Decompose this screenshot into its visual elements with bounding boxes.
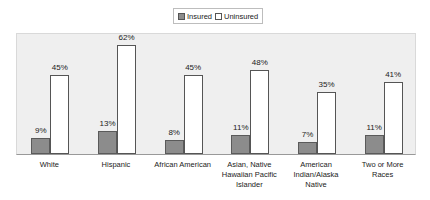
legend-label-uninsured: Uninsured — [224, 12, 258, 21]
legend-item-uninsured: Uninsured — [215, 12, 258, 21]
bar-insured-0 — [31, 138, 50, 154]
plot-area: 9%45%13%62%8%45%11%48%7%35%11%41% — [16, 33, 416, 155]
chart-legend: Insured Uninsured — [173, 8, 263, 24]
bar-uninsured-0 — [50, 75, 69, 154]
bar-uninsured-4 — [317, 92, 336, 154]
bar-insured-5 — [365, 135, 384, 154]
value-label-uninsured-3: 48% — [245, 58, 275, 67]
bar-insured-2 — [165, 140, 184, 154]
category-label-0: White — [16, 160, 83, 170]
value-label-uninsured-2: 45% — [178, 63, 208, 72]
legend-swatch-uninsured — [215, 13, 222, 20]
value-label-uninsured-5: 41% — [378, 70, 408, 79]
legend-label-insured: Insured — [187, 12, 212, 21]
category-label-5: Two or MoreRaces — [349, 160, 416, 180]
category-label-1: Hispanic — [83, 160, 150, 170]
bar-insured-1 — [98, 131, 117, 154]
category-label-2: African American — [149, 160, 216, 170]
bar-insured-4 — [298, 142, 317, 154]
bar-uninsured-1 — [117, 45, 136, 154]
bar-uninsured-5 — [384, 82, 403, 154]
category-label-4: AmericanIndian/AlaskaNative — [283, 160, 350, 190]
category-label-3: Asian, NativeHawaiian PacificIslander — [216, 160, 283, 190]
bar-uninsured-3 — [250, 70, 269, 154]
bar-insured-3 — [231, 135, 250, 154]
legend-item-insured: Insured — [178, 12, 212, 21]
value-label-uninsured-1: 62% — [112, 33, 142, 42]
value-label-uninsured-0: 45% — [45, 63, 75, 72]
value-label-uninsured-4: 35% — [312, 80, 342, 89]
legend-swatch-insured — [178, 13, 185, 20]
bar-uninsured-2 — [184, 75, 203, 154]
